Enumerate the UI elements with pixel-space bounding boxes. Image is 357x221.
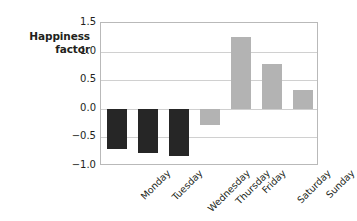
y-tick-label: 0.5: [56, 74, 96, 84]
y-axis-label-line-1: Happiness: [6, 30, 90, 43]
bar[interactable]: [107, 109, 127, 149]
y-tick-label: −1.0: [56, 160, 96, 170]
bar-slot: [132, 23, 163, 164]
y-tick-label: 1.0: [56, 46, 96, 56]
bar[interactable]: [262, 64, 282, 109]
y-tick-label: 0.0: [56, 103, 96, 113]
bar[interactable]: [138, 109, 158, 153]
bar-slot: [101, 23, 132, 164]
x-tick-label: Tuesday: [170, 168, 204, 202]
x-tick-label: Monday: [139, 168, 173, 202]
bar[interactable]: [231, 37, 251, 109]
bar-slot: [257, 23, 288, 164]
bar-slot: [288, 23, 319, 164]
bar[interactable]: [169, 109, 189, 156]
bar-slot: [226, 23, 257, 164]
bar-series: [101, 23, 317, 164]
bar[interactable]: [200, 109, 220, 125]
y-tick-label: −0.5: [56, 131, 96, 141]
bar-slot: [194, 23, 225, 164]
y-tick-label: 1.5: [56, 17, 96, 27]
bar-slot: [163, 23, 194, 164]
bar[interactable]: [293, 90, 313, 109]
plot-area: [100, 22, 318, 165]
